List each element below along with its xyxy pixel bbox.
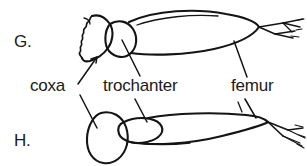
panel-letter-h: H. xyxy=(14,131,31,150)
trochanter-shape-h xyxy=(118,118,162,143)
leader-trochanter-upper xyxy=(122,40,140,76)
leader-femur-upper xyxy=(234,41,247,77)
panel-letter-g: G. xyxy=(14,32,32,51)
label-coxa: coxa xyxy=(30,76,66,95)
figure-container: G. H. coxa trochanter femur xyxy=(0,0,307,166)
label-femur: femur xyxy=(231,76,274,95)
tarsus-claws-h xyxy=(268,122,305,148)
panel-h-drawing xyxy=(87,112,305,163)
leader-femur-tick xyxy=(238,102,242,112)
femur-shape-g xyxy=(129,11,259,55)
trochanter-shape-g xyxy=(105,21,136,57)
leg-anatomy-diagram: G. H. coxa trochanter femur xyxy=(0,0,307,166)
panel-g-drawing xyxy=(79,11,304,62)
label-trochanter: trochanter xyxy=(103,76,178,95)
tarsus-claws-g xyxy=(259,19,304,38)
femur-shape-h xyxy=(130,113,268,144)
coxa-shape-g xyxy=(79,15,112,61)
leader-coxa-lower xyxy=(80,95,97,128)
